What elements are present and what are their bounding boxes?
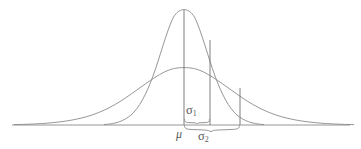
normal-distribution-figure: σ1 σ2 μ: [0, 0, 361, 149]
plot-canvas: [0, 0, 361, 149]
sigma2-brace: [185, 125, 240, 132]
sigma1-brace: [185, 119, 210, 124]
